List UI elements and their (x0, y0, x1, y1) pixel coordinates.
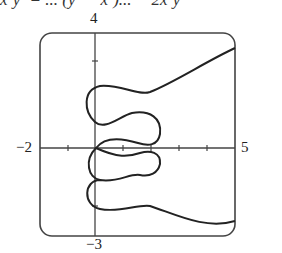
curve (87, 48, 235, 224)
x-min-label: −2 (16, 139, 32, 156)
y-max-label: 4 (90, 10, 98, 27)
y-min-label: −3 (86, 236, 102, 253)
x-max-label: 5 (241, 139, 249, 156)
